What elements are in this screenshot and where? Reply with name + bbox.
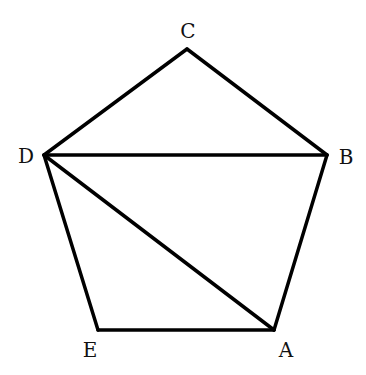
side-bc: [187, 49, 327, 155]
vertex-label-d: D: [18, 144, 34, 168]
pentagon-figure: ABCDE: [0, 0, 366, 375]
side-ab: [274, 155, 327, 330]
vertex-label-b: B: [339, 145, 354, 169]
diagonal-da: [44, 155, 274, 330]
vertex-label-a: A: [278, 338, 294, 362]
vertex-label-c: C: [180, 19, 195, 43]
edges-group: [44, 49, 327, 330]
vertex-labels-group: ABCDE: [18, 19, 353, 362]
side-cd: [44, 49, 187, 155]
side-de: [44, 155, 98, 330]
geometry-diagram: ABCDE: [0, 0, 366, 375]
vertex-label-e: E: [83, 338, 98, 362]
